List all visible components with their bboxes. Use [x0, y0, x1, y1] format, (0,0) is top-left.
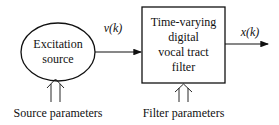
- source-label-line2: source: [42, 52, 73, 66]
- signal-x-label: x(k): [240, 25, 260, 39]
- filter-label-line2: digital: [168, 30, 199, 44]
- filter-label-line3: vocal tract: [158, 45, 209, 59]
- filter-label-line1: Time-varying: [151, 15, 217, 29]
- filter-params-label: Filter parameters: [143, 106, 225, 120]
- speech-model-diagram: Excitation source v(k) Time-varying digi…: [0, 0, 279, 125]
- source-label-line1: Excitation: [33, 37, 82, 51]
- filter-label-line4: filter: [172, 60, 195, 74]
- signal-v-label: v(k): [104, 21, 123, 35]
- source-params-label: Source parameters: [14, 106, 103, 120]
- source-params-arrow: [47, 79, 64, 102]
- filter-params-arrow: [175, 84, 192, 102]
